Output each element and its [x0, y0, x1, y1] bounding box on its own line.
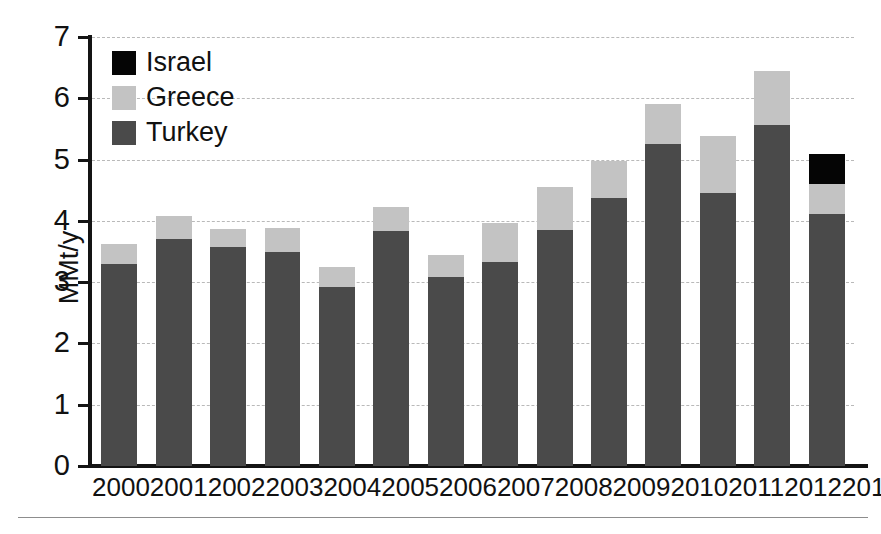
bar-group-2013[interactable] — [799, 37, 853, 466]
bar-stack — [591, 161, 627, 466]
bar-segment-greece-2012[interactable] — [754, 71, 790, 125]
legend-label-greece: Greece — [146, 84, 235, 111]
bar-group-2012[interactable] — [745, 37, 799, 466]
bar-stack — [428, 255, 464, 466]
chart-figure: MMt/y 01234567 2000200120022003200420052… — [0, 0, 881, 534]
y-tick-mark-7 — [78, 36, 90, 39]
bar-segment-greece-2001[interactable] — [156, 216, 192, 239]
y-tick-mark-4 — [78, 220, 90, 223]
y-tick-mark-0 — [78, 465, 90, 468]
bar-group-2011[interactable] — [691, 37, 745, 466]
x-axis-tick-labels: 2000200120022003200420052006200720082009… — [92, 472, 854, 502]
bar-stack — [809, 154, 845, 466]
bar-stack — [156, 216, 192, 466]
bar-segment-turkey-2001[interactable] — [156, 239, 192, 466]
x-tick-label-2000: 2000 — [92, 472, 150, 502]
bar-stack — [537, 187, 573, 466]
bar-stack — [210, 229, 246, 466]
legend-swatch-turkey — [112, 121, 136, 145]
bar-group-2010[interactable] — [636, 37, 690, 466]
y-tick-label-4: 4 — [30, 206, 70, 235]
x-tick-label-2013: 2013 — [842, 472, 881, 502]
bar-stack — [373, 207, 409, 466]
y-tick-label-6: 6 — [30, 83, 70, 112]
y-tick-mark-5 — [78, 159, 90, 162]
bar-segment-turkey-2007[interactable] — [482, 262, 518, 466]
bar-segment-greece-2011[interactable] — [700, 136, 736, 193]
bar-segment-turkey-2004[interactable] — [319, 287, 355, 466]
x-tick-label-2005: 2005 — [381, 472, 439, 502]
bar-segment-greece-2008[interactable] — [537, 187, 573, 230]
bar-stack — [645, 104, 681, 466]
bar-segment-turkey-2000[interactable] — [101, 264, 137, 466]
bar-segment-turkey-2005[interactable] — [373, 231, 409, 466]
y-tick-label-3: 3 — [30, 267, 70, 296]
bar-segment-israel-2013[interactable] — [809, 154, 845, 184]
bar-segment-greece-2003[interactable] — [265, 228, 301, 252]
bar-segment-greece-2006[interactable] — [428, 255, 464, 278]
chart-legend: IsraelGreeceTurkey — [112, 46, 235, 149]
legend-item-turkey[interactable]: Turkey — [112, 116, 235, 149]
y-tick-label-5: 5 — [30, 145, 70, 174]
bar-group-2005[interactable] — [364, 37, 418, 466]
bar-segment-turkey-2003[interactable] — [265, 252, 301, 467]
legend-item-israel[interactable]: Israel — [112, 46, 235, 79]
bar-group-2003[interactable] — [255, 37, 309, 466]
x-tick-label-2003: 2003 — [266, 472, 324, 502]
bar-stack — [482, 223, 518, 466]
legend-item-greece[interactable]: Greece — [112, 81, 235, 114]
bar-stack — [101, 244, 137, 466]
y-tick-mark-1 — [78, 404, 90, 407]
bar-segment-greece-2010[interactable] — [645, 104, 681, 143]
bar-segment-turkey-2002[interactable] — [210, 247, 246, 466]
legend-label-turkey: Turkey — [146, 119, 228, 146]
x-tick-label-2011: 2011 — [728, 472, 784, 502]
bar-segment-greece-2002[interactable] — [210, 229, 246, 247]
bottom-divider-rule — [18, 517, 868, 518]
bar-stack — [319, 267, 355, 466]
bar-stack — [265, 228, 301, 466]
x-tick-label-2008: 2008 — [555, 472, 613, 502]
y-tick-label-7: 7 — [30, 22, 70, 51]
x-tick-label-2009: 2009 — [613, 472, 671, 502]
bar-segment-turkey-2011[interactable] — [700, 193, 736, 466]
bar-group-2007[interactable] — [473, 37, 527, 466]
bar-group-2008[interactable] — [527, 37, 581, 466]
x-tick-label-2002: 2002 — [208, 472, 266, 502]
legend-label-israel: Israel — [146, 49, 212, 76]
bar-segment-greece-2007[interactable] — [482, 223, 518, 262]
bar-segment-greece-2005[interactable] — [373, 207, 409, 231]
bar-segment-greece-2000[interactable] — [101, 244, 137, 264]
bar-segment-turkey-2008[interactable] — [537, 230, 573, 466]
y-tick-label-2: 2 — [30, 328, 70, 357]
x-tick-label-2010: 2010 — [670, 472, 728, 502]
bar-stack — [754, 71, 790, 466]
bar-segment-turkey-2012[interactable] — [754, 125, 790, 466]
legend-swatch-greece — [112, 86, 136, 110]
bar-stack — [700, 136, 736, 466]
bar-group-2006[interactable] — [419, 37, 473, 466]
bar-segment-greece-2004[interactable] — [319, 267, 355, 287]
bar-segment-turkey-2009[interactable] — [591, 198, 627, 466]
x-tick-label-2004: 2004 — [323, 472, 381, 502]
x-tick-label-2006: 2006 — [439, 472, 497, 502]
bar-segment-turkey-2006[interactable] — [428, 277, 464, 466]
x-tick-label-2012: 2012 — [784, 472, 842, 502]
y-tick-mark-2 — [78, 342, 90, 345]
y-tick-mark-6 — [78, 97, 90, 100]
y-tick-label-0: 0 — [30, 451, 70, 480]
bar-segment-greece-2009[interactable] — [591, 161, 627, 198]
bar-group-2004[interactable] — [310, 37, 364, 466]
bar-segment-greece-2013[interactable] — [809, 184, 845, 213]
y-tick-mark-3 — [78, 281, 90, 284]
bar-group-2009[interactable] — [582, 37, 636, 466]
x-tick-label-2007: 2007 — [497, 472, 555, 502]
x-tick-label-2001: 2001 — [150, 472, 208, 502]
y-tick-label-1: 1 — [30, 390, 70, 419]
legend-swatch-israel — [112, 51, 136, 75]
bar-segment-turkey-2010[interactable] — [645, 144, 681, 466]
bar-segment-turkey-2013[interactable] — [809, 214, 845, 466]
